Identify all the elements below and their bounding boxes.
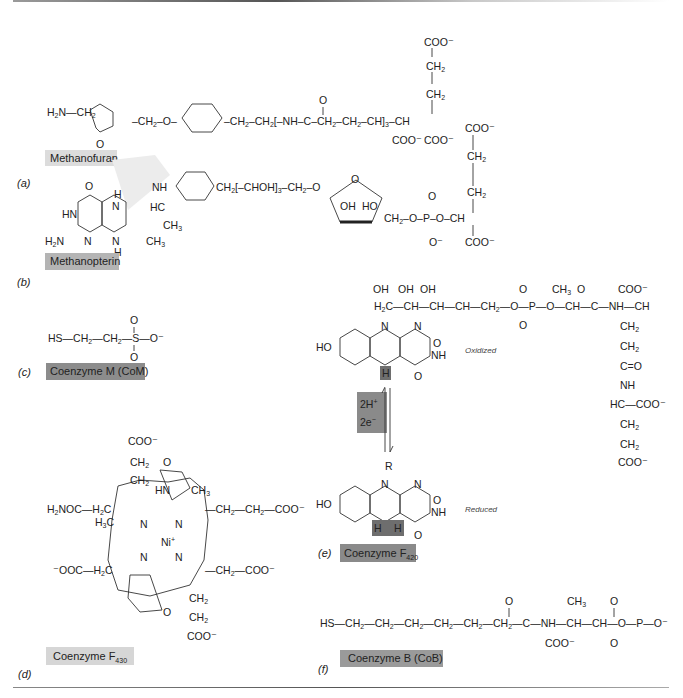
svg-text:COO⁻: COO⁻ (545, 637, 575, 649)
svg-text:OH: OH (340, 200, 356, 212)
cyclohexanone-ring (128, 575, 162, 612)
svg-text:HS—CH2—CH2—CH2—CH2—CH2—CH2—C—N: HS—CH2—CH2—CH2—CH2—CH2—CH2—C—NH—CH—CH—O—… (320, 617, 668, 630)
svg-text:N: N (140, 551, 148, 563)
panel-b-methanopterin: O HN H2N N H N N H CH3 HC CH3 NH CH2[–CH… (17, 122, 495, 288)
oxidized-label: Oxidized (465, 346, 497, 355)
svg-text:O: O (519, 283, 527, 295)
panel-d-letter: (d) (18, 668, 32, 680)
svg-text:COO⁻: COO⁻ (128, 435, 158, 447)
phenyl-ring-a (182, 104, 222, 132)
coenzymes-figure: H2N—CH2 O –CH2–O– –CH2–CH2[–NH–C–CH2–CH2… (0, 0, 683, 698)
svg-text:O: O (433, 494, 441, 506)
svg-text:COO⁻: COO⁻ (424, 36, 454, 48)
phenyl-ring-b (176, 172, 214, 200)
svg-text:CH2: CH2 (620, 320, 639, 333)
svg-text:HO: HO (362, 200, 378, 212)
svg-text:COO⁻: COO⁻ (187, 630, 217, 642)
f420-oxidized: OH OH OH H2C—CH—CH—CH—CH2—O—P—O—CH—C—NH—… (316, 283, 650, 382)
svg-text:O: O (319, 94, 327, 106)
svg-text:CH2: CH2 (620, 340, 639, 353)
panel-c-letter: (c) (18, 366, 31, 378)
svg-text:CH3: CH3 (191, 484, 210, 497)
svg-text:—CH2—CH2—COO⁻: —CH2—CH2—COO⁻ (205, 503, 305, 516)
svg-text:COO⁻: COO⁻ (465, 122, 495, 134)
panel-f-coenzyme-b: HS—CH2—CH2—CH2—CH2—CH2—CH2—C—NH—CH—CH—O—… (318, 595, 668, 675)
svg-text:O: O (577, 283, 585, 295)
svg-text:CH3: CH3 (146, 235, 165, 248)
svg-text:NH: NH (431, 506, 446, 518)
svg-text:O⁻: O⁻ (429, 236, 443, 248)
svg-text:–CH2–O–: –CH2–O– (132, 115, 177, 128)
svg-text:HN: HN (62, 208, 77, 220)
svg-text:O: O (433, 337, 441, 349)
svg-text:CH2: CH2 (426, 88, 445, 101)
svg-text:O: O (610, 637, 618, 649)
svg-text:H: H (394, 522, 402, 534)
svg-text:N: N (414, 478, 422, 490)
svg-text:CH2: CH2 (467, 150, 486, 163)
svg-text:NH: NH (620, 379, 635, 391)
svg-text:N: N (414, 320, 422, 332)
svg-text:N: N (140, 518, 148, 530)
svg-text:O: O (163, 456, 171, 468)
svg-text:N: N (381, 478, 389, 490)
svg-text:H2NOC—H2C: H2NOC—H2C (47, 503, 112, 516)
svg-text:COO⁻: COO⁻ (424, 134, 454, 146)
panel-b-letter: (b) (17, 276, 31, 288)
svg-text:HO: HO (316, 498, 332, 510)
svg-text:CH2: CH2 (620, 438, 639, 451)
svg-text:CH3: CH3 (552, 283, 571, 296)
svg-text:N: N (175, 551, 183, 563)
svg-text:HS—CH2—CH2—S—O⁻: HS—CH2—CH2—S—O⁻ (48, 332, 164, 345)
nickel-center: Ni+ (161, 536, 175, 548)
svg-text:CH2: CH2 (620, 418, 639, 431)
redox-equilibrium: 2H+ 2e− (357, 387, 393, 452)
svg-text:CH2: CH2 (130, 456, 149, 469)
svg-text:O: O (414, 529, 422, 541)
panel-d-coenzyme-f430: COO⁻ CH2 CH2 O HN CH3 H2NOC—H2C H3C —CH2… (18, 435, 305, 680)
svg-text:—CH2—COO⁻: —CH2—COO⁻ (205, 564, 275, 577)
svg-text:H3C: H3C (95, 516, 115, 529)
svg-text:N: N (175, 518, 183, 530)
svg-text:NH: NH (152, 181, 167, 193)
svg-text:CH3: CH3 (567, 595, 586, 608)
panel-a-name: Methanofuran (50, 152, 118, 164)
svg-text:O: O (414, 370, 422, 382)
svg-text:HO: HO (316, 341, 332, 353)
svg-text:OH: OH (373, 283, 389, 295)
text-h2n-ch2: H2N—CH2 (47, 106, 96, 119)
svg-text:⁻OOC—H2C: ⁻OOC—H2C (53, 564, 113, 577)
panel-a-methanofuran: H2N—CH2 O –CH2–O– –CH2–CH2[–NH–C–CH2–CH2… (17, 36, 454, 189)
panel-c-name: Coenzyme M (CoM) (50, 365, 148, 377)
svg-text:R: R (385, 460, 393, 472)
panel-e-letter: (e) (318, 547, 332, 559)
svg-text:CH2: CH2 (426, 60, 445, 73)
svg-text:N: N (112, 200, 120, 212)
svg-text:HC—COO⁻: HC—COO⁻ (610, 398, 666, 410)
panel-e-coenzyme-f420: OH OH OH H2C—CH—CH—CH—CH2—O—P—O—CH—C—NH—… (316, 283, 666, 562)
svg-text:N: N (84, 235, 92, 247)
svg-text:HN: HN (155, 484, 170, 496)
panel-f-letter: (f) (318, 663, 329, 675)
panel-a-letter: (a) (17, 177, 31, 189)
svg-text:CH2[–CHOH]3–CH2–O: CH2[–CHOH]3–CH2–O (216, 181, 321, 194)
svg-text:CH2–O–P–O–CH: CH2–O–P–O–CH (384, 212, 465, 225)
svg-text:OH: OH (420, 283, 436, 295)
svg-text:COO⁻: COO⁻ (618, 283, 648, 295)
panel-c-coenzyme-m: HS—CH2—CH2—S—O⁻ O O Coenzyme M (CoM) (c) (18, 314, 164, 380)
svg-text:COO⁻: COO⁻ (618, 456, 648, 468)
svg-text:O: O (519, 319, 527, 331)
svg-text:HC: HC (150, 201, 166, 213)
svg-text:O: O (428, 190, 436, 202)
svg-text:O: O (163, 606, 171, 618)
svg-text:O: O (130, 351, 138, 363)
svg-text:O: O (96, 138, 104, 150)
svg-text:N: N (381, 320, 389, 332)
svg-text:COO⁻: COO⁻ (392, 134, 422, 146)
pyrimidine-ring (78, 195, 102, 232)
svg-text:OH: OH (398, 283, 414, 295)
svg-text:O: O (351, 173, 359, 185)
svg-text:CH2: CH2 (467, 186, 486, 199)
panel-f-name: Coenzyme B (CoB) (348, 652, 443, 664)
svg-text:COO⁻: COO⁻ (465, 236, 495, 248)
